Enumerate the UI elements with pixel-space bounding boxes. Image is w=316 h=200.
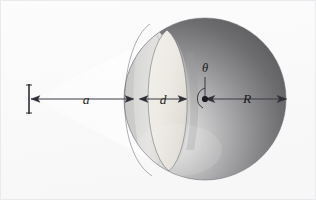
figure-container: a d R θ [0, 0, 316, 200]
label-R: R [242, 91, 252, 106]
label-d: d [160, 92, 167, 107]
label-theta: θ [202, 61, 208, 75]
label-a: a [83, 92, 90, 107]
physics-diagram-svg: a d R θ [0, 0, 316, 200]
sphere-center [202, 96, 208, 102]
